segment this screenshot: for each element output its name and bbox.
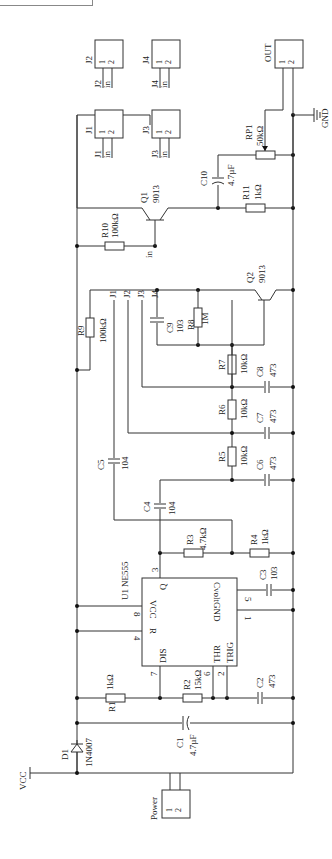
svg-text:1: 1 [155, 130, 164, 134]
svg-text:1: 1 [98, 60, 107, 64]
svg-text:RP1: RP1 [244, 124, 254, 140]
resistor-r1-icon [106, 694, 125, 702]
svg-text:1: 1 [278, 60, 287, 64]
svg-text:1N4007: 1N4007 [84, 738, 94, 767]
svg-text:J1: J1 [108, 290, 118, 298]
svg-text:10kΩ: 10kΩ [239, 354, 249, 375]
svg-text:R11: R11 [241, 185, 251, 200]
svg-text:R7: R7 [217, 359, 227, 370]
svg-text:104: 104 [167, 501, 177, 515]
svg-text:2: 2 [287, 60, 296, 64]
resistor-r9-icon [86, 318, 94, 337]
svg-text:C7: C7 [255, 412, 265, 423]
svg-text:10kΩ: 10kΩ [239, 399, 249, 420]
svg-text:in: in [159, 80, 169, 88]
svg-text:C9: C9 [165, 322, 175, 333]
svg-text:in: in [144, 250, 154, 258]
svg-text:R2: R2 [182, 679, 192, 690]
svg-text:5: 5 [243, 597, 253, 602]
svg-text:9013: 9013 [151, 185, 161, 204]
svg-text:R4: R4 [249, 534, 259, 545]
connector-j1: 1 2 J1 J1 in [84, 110, 123, 158]
svg-text:J3: J3 [141, 125, 151, 134]
svg-text:103: 103 [175, 319, 185, 333]
svg-text:J1: J1 [84, 126, 94, 134]
svg-text:4.7kΩ: 4.7kΩ [198, 527, 208, 550]
transistor-q1-icon [142, 208, 150, 220]
svg-text:1kΩ: 1kΩ [253, 184, 263, 200]
connector-j4: 1 2 J4 J4 in [141, 40, 180, 88]
svg-text:1M: 1M [200, 312, 210, 325]
svg-text:2: 2 [164, 60, 173, 64]
diode-d1-icon [71, 744, 83, 752]
svg-text:in: in [102, 150, 112, 158]
svg-text:4.7µF: 4.7µF [188, 735, 198, 756]
connector-j2: 1 2 J2 J2 in [84, 40, 123, 88]
svg-text:C3: C3 [258, 569, 268, 580]
svg-text:8: 8 [132, 612, 142, 617]
svg-text:Q: Q [158, 583, 168, 590]
svg-text:3: 3 [150, 567, 160, 572]
svg-text:R6: R6 [217, 404, 227, 415]
svg-text:in: in [102, 80, 112, 88]
resistor-r10-icon [105, 242, 124, 250]
svg-text:J2: J2 [84, 56, 94, 64]
svg-text:4: 4 [132, 636, 142, 641]
svg-text:J2: J2 [122, 290, 132, 298]
power-connector [162, 790, 190, 818]
vcc-label: VCC [18, 771, 28, 790]
svg-text:C8: C8 [255, 366, 265, 377]
svg-text:R8: R8 [186, 319, 196, 330]
svg-text:Cvolt: Cvolt [212, 582, 222, 603]
svg-text:100kΩ: 100kΩ [110, 213, 120, 238]
resistor-r11-icon [246, 204, 265, 212]
svg-text:J4: J4 [141, 55, 151, 64]
svg-text:1: 1 [98, 130, 107, 134]
svg-text:7: 7 [149, 671, 159, 676]
svg-text:104: 104 [120, 456, 130, 470]
gnd-label: GND [320, 108, 330, 128]
resistor-r6-icon [228, 400, 236, 419]
svg-text:10kΩ: 10kΩ [239, 446, 249, 467]
svg-text:C2: C2 [255, 677, 265, 688]
svg-text:C10: C10 [199, 170, 209, 186]
transistor-q2-icon [255, 290, 262, 300]
svg-text:D1: D1 [60, 749, 70, 760]
svg-text:Q1: Q1 [139, 192, 149, 203]
svg-text:U1: U1 [120, 589, 130, 600]
svg-text:2: 2 [164, 130, 173, 134]
connector-j3: 1 2 J3 J3 in [141, 110, 180, 158]
svg-text:473: 473 [267, 674, 277, 688]
svg-text:J3: J3 [136, 289, 146, 298]
svg-text:DIS: DIS [158, 648, 168, 663]
svg-text:R: R [148, 628, 158, 634]
svg-text:NE555: NE555 [120, 561, 130, 587]
svg-text:THR: THR [212, 645, 222, 663]
svg-text:Q2: Q2 [245, 272, 255, 283]
svg-text:R9: R9 [76, 325, 86, 336]
svg-text:473: 473 [268, 456, 278, 470]
svg-text:1kΩ: 1kΩ [260, 529, 270, 545]
output-label: OUT [263, 43, 273, 62]
svg-text:C1: C1 [175, 737, 185, 748]
svg-text:2: 2 [107, 130, 116, 134]
svg-text:C6: C6 [255, 459, 265, 470]
svg-text:1: 1 [165, 808, 174, 812]
svg-text:50kΩ: 50kΩ [255, 126, 265, 147]
svg-text:R10: R10 [100, 222, 110, 238]
svg-text:1: 1 [155, 60, 164, 64]
svg-text:100kΩ: 100kΩ [98, 318, 108, 343]
svg-text:2: 2 [216, 672, 226, 677]
svg-text:9013: 9013 [257, 265, 267, 284]
svg-text:R5: R5 [217, 451, 227, 462]
svg-text:C4: C4 [142, 501, 152, 512]
svg-text:in: in [159, 150, 169, 158]
svg-text:1: 1 [243, 616, 253, 621]
svg-text:R3: R3 [185, 534, 195, 545]
resistor-r5-icon [228, 447, 236, 466]
svg-text:GND: GND [212, 602, 222, 622]
svg-text:6: 6 [202, 671, 212, 676]
svg-text:TRIG: TRIG [225, 642, 235, 663]
svg-text:C5: C5 [96, 459, 106, 470]
power-label: Power [149, 797, 159, 820]
